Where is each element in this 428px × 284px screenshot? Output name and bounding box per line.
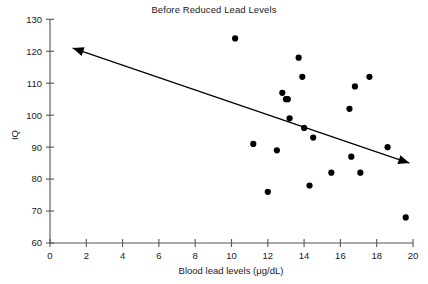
data-point — [296, 55, 302, 61]
x-tick-label: 16 — [335, 250, 346, 261]
data-point — [279, 90, 285, 96]
x-tick-label: 4 — [120, 250, 125, 261]
data-point — [250, 141, 256, 147]
y-axis-title: IQ — [9, 130, 20, 140]
chart-figure: Before Reduced Lead Levels 6070809010011… — [0, 0, 428, 284]
data-point — [274, 147, 280, 153]
x-tick-label: 18 — [371, 250, 382, 261]
scatter-plot: 60708090100110120130 02468101214161820 I… — [0, 0, 428, 284]
data-point — [310, 134, 316, 140]
x-axis-ticks: 02468101214161820 — [47, 239, 418, 261]
data-point — [328, 170, 334, 176]
data-point — [346, 106, 352, 112]
trend-line — [73, 48, 410, 163]
data-point — [299, 74, 305, 80]
x-tick-label: 2 — [84, 250, 89, 261]
x-tick-label: 8 — [193, 250, 198, 261]
data-point — [265, 189, 271, 195]
x-tick-label: 12 — [263, 250, 274, 261]
data-point — [285, 96, 291, 102]
data-point — [352, 83, 358, 89]
trend-arrowhead-left — [73, 47, 85, 56]
y-tick-label: 130 — [26, 14, 42, 25]
y-tick-label: 70 — [31, 205, 42, 216]
y-tick-label: 80 — [31, 173, 42, 184]
data-point — [286, 115, 292, 121]
trend-arrow — [73, 47, 410, 164]
x-axis-title: Blood lead levels (μg/dL) — [179, 265, 284, 276]
data-point — [348, 154, 354, 160]
data-point — [384, 144, 390, 150]
y-tick-label: 90 — [31, 142, 42, 153]
data-point — [232, 35, 238, 41]
data-point — [403, 214, 409, 220]
y-tick-label: 100 — [26, 110, 42, 121]
y-tick-label: 120 — [26, 46, 42, 57]
y-tick-label: 60 — [31, 237, 42, 248]
x-tick-label: 20 — [408, 250, 419, 261]
x-tick-label: 0 — [47, 250, 52, 261]
x-tick-label: 14 — [299, 250, 310, 261]
data-point — [357, 170, 363, 176]
data-point — [366, 74, 372, 80]
data-points-group — [232, 35, 409, 220]
x-tick-label: 10 — [226, 250, 237, 261]
trend-arrowhead-right — [397, 155, 409, 164]
x-tick-label: 6 — [156, 250, 161, 261]
y-tick-label: 110 — [27, 78, 42, 89]
data-point — [306, 182, 312, 188]
